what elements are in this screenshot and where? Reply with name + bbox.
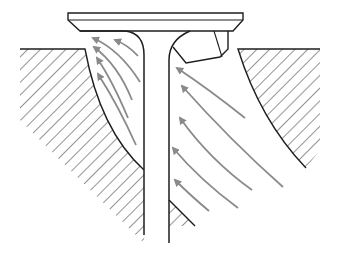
valve-head (68, 13, 243, 31)
flow-arrow-icon (115, 40, 138, 56)
right-port-wall (238, 49, 320, 168)
flow-arrow-icon (173, 148, 238, 208)
valve-flow-diagram (0, 0, 338, 260)
flow-arrow-icon (93, 38, 140, 82)
flow-arrow-icon (180, 118, 252, 190)
left-port-wall (20, 49, 144, 243)
stem-guide-wedge (169, 200, 195, 226)
flow-arrow-icon (94, 47, 132, 100)
flow-arrow-icon (175, 180, 209, 211)
